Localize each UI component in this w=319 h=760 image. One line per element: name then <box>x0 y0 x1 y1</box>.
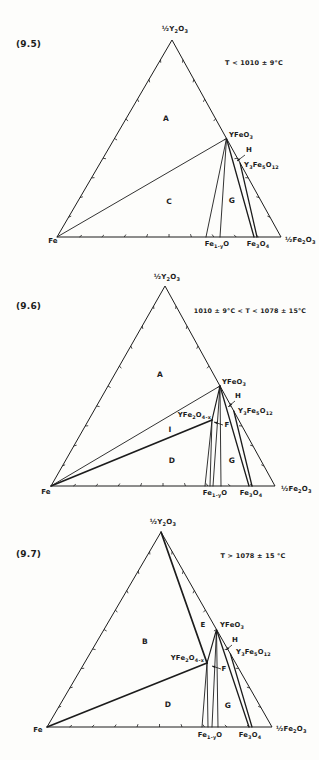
phase-label-y3fe5o12: Y3Fe5O12 <box>235 648 271 657</box>
region-label-a: A <box>163 114 169 123</box>
temperature-condition: T < 1010 ± 9°C <box>225 59 283 67</box>
phase-label-yfeo3: YFeO3 <box>228 131 253 140</box>
region-label-h: H <box>235 392 241 400</box>
phase-label-y3fe5o12: Y3Fe5O12 <box>237 407 273 416</box>
phase-label-yfeo3: YFeO3 <box>219 621 244 630</box>
tick-mark <box>126 119 128 121</box>
phase-label-yfe2o4: YFe2O4-x <box>170 654 205 663</box>
figure-9-7: (9.7)T > 1078 ± 15 °C½Y2O3Fe½Fe2O3EYFeO3… <box>0 506 319 760</box>
region-label-g: G <box>225 701 231 710</box>
tick-mark <box>131 346 132 349</box>
tie-line-fe-yfeo3 <box>51 386 220 486</box>
corner-label-fe2o3: ½Fe2O3 <box>285 236 316 245</box>
tick-mark <box>197 346 198 349</box>
axis-label-fe3o4: Fe3O4 <box>239 731 262 740</box>
figure-number: (9.6) <box>16 301 41 311</box>
region-label-f: F <box>225 421 230 429</box>
edge-ticks <box>69 60 271 237</box>
figure-number: (9.5) <box>16 39 41 49</box>
phase-label-yfe2o4: YFe2O4-x <box>177 411 212 420</box>
tick-mark <box>207 366 209 368</box>
tick-mark <box>203 610 205 612</box>
tick-mark <box>138 571 139 574</box>
apex-label-y2o3: ½Y2O3 <box>162 25 189 34</box>
corner-label-fe: Fe <box>41 488 51 496</box>
tick-mark <box>186 326 187 329</box>
f-pointer-arrow <box>214 422 223 425</box>
tick-mark <box>104 630 107 632</box>
tick-mark <box>193 79 194 82</box>
triangle-outline <box>51 286 275 486</box>
ternary-diagram-9.5: (9.5)T < 1010 ± 9°C½Y2O3Fe½Fe2O3YFeO3HY3… <box>0 0 319 253</box>
corner-label-fe2o3: ½Fe2O3 <box>276 725 307 734</box>
apex-label-y2o3: ½Y2O3 <box>150 518 177 527</box>
tick-mark <box>142 326 143 329</box>
tick-mark <box>149 79 150 82</box>
apex-label-y2o3: ½Y2O3 <box>154 273 181 282</box>
region-label-a: A <box>157 370 163 379</box>
temperature-condition: 1010 ± 9°C < T < 1078 ± 15°C <box>194 307 306 314</box>
figure-9-5: (9.5)T < 1010 ± 9°C½Y2O3Fe½Fe2O3YFeO3HY3… <box>0 0 319 253</box>
tick-mark <box>97 406 100 407</box>
region-label-d: D <box>169 456 175 465</box>
tie-line-y2o3-yfe2o4 <box>161 532 207 663</box>
region-label-c: C <box>166 197 172 206</box>
tick-mark <box>182 571 183 574</box>
region-label-f: F <box>222 665 227 673</box>
tick-mark <box>93 649 96 650</box>
tick-mark <box>228 406 231 407</box>
tick-mark <box>127 591 128 594</box>
tick-mark <box>214 119 216 121</box>
tie-line-fe-yfeo3 <box>57 139 227 238</box>
ternary-diagram-9.6: (9.6)1010 ± 9°C < T < 1078 ± 15°C½Y2O3Fe… <box>0 253 319 506</box>
temperature-condition: T > 1078 ± 15 °C <box>221 552 286 560</box>
tick-mark <box>108 386 111 388</box>
corner-label-fe: Fe <box>33 726 43 734</box>
ternary-diagram-9.7: (9.7)T > 1078 ± 15 °C½Y2O3Fe½Fe2O3EYFeO3… <box>0 506 319 760</box>
region-label-h: H <box>232 636 238 644</box>
tick-mark <box>103 158 106 159</box>
phase-label-y3fe5o12: Y3Fe5O12 <box>243 161 279 170</box>
figure-number: (9.7) <box>16 549 41 559</box>
region-label-g: G <box>229 196 235 205</box>
region-label-d: D <box>165 700 171 709</box>
phase-label-yfeo3: YFeO3 <box>221 378 246 387</box>
axis-label-wustite: Fe1-yO <box>198 731 223 741</box>
axis-label-fe3o4: Fe3O4 <box>247 240 270 249</box>
tick-mark <box>193 591 194 594</box>
axis-label-fe3o4: Fe3O4 <box>240 489 263 498</box>
corner-label-fe: Fe <box>48 237 58 245</box>
region-label-h: H <box>246 146 252 154</box>
f-pointer-arrow <box>212 666 221 669</box>
tie-line-y3fe5o12-fe3o4 <box>240 163 257 237</box>
region-label-b: B <box>142 637 148 646</box>
figure-page: (9.5)T < 1010 ± 9°C½Y2O3Fe½Fe2O3YFeO3HY3… <box>0 0 319 760</box>
tick-mark <box>138 99 139 102</box>
tick-mark <box>234 158 237 159</box>
tie-line-yfe2o4-wustite-right <box>207 663 208 727</box>
tick-mark <box>115 139 118 141</box>
region-label-i: I <box>169 425 172 434</box>
tick-mark <box>119 366 121 368</box>
region-label-g: G <box>229 456 235 465</box>
tick-mark <box>115 610 117 612</box>
tie-line-y3fe5o12-fe3o4 <box>234 411 252 486</box>
figure-9-6: (9.6)1010 ± 9°C < T < 1078 ± 15°C½Y2O3Fe… <box>0 253 319 506</box>
axis-label-wustite: Fe1-yO <box>205 240 230 250</box>
tie-line-yfeo3-wustite-right <box>217 630 219 728</box>
tie-line-yfeo3-wustite-right <box>220 386 221 486</box>
triangle-outline <box>47 532 272 727</box>
tie-line-fe-yfe2o4 <box>51 420 212 486</box>
axis-label-wustite: Fe1-yO <box>203 489 228 499</box>
region-label-e: E <box>201 621 206 629</box>
tie-line-yfe2o4-wustite-left <box>202 663 207 727</box>
tick-mark <box>203 99 204 102</box>
tie-line-y3fe5o12-fe3o4 <box>230 654 252 727</box>
corner-label-fe2o3: ½Fe2O3 <box>281 485 312 494</box>
tie-line-fe-yfe2o4 <box>47 663 207 727</box>
